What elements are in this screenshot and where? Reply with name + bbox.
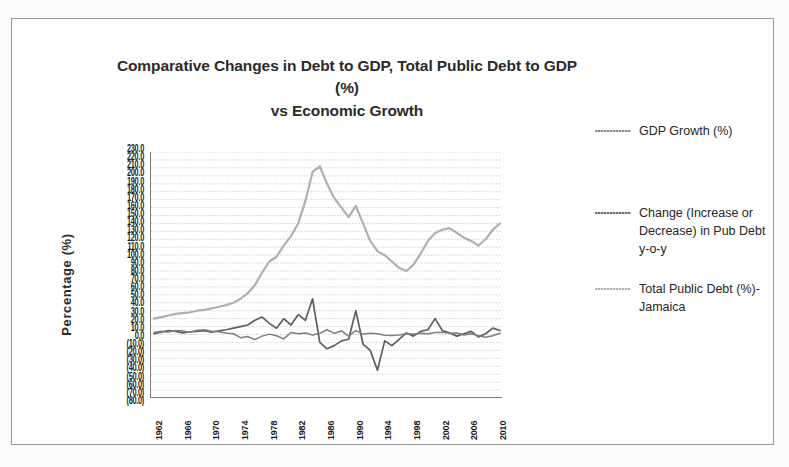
y-axis-title: Percentage (%): [59, 200, 74, 370]
x-axis-tick-label: 1982: [297, 421, 307, 440]
chart-title-line-2: vs Economic Growth: [107, 100, 587, 122]
y-axis-tick-labels: 230.0220.0210.0200.0190.0180.0170.0160.0…: [84, 148, 144, 400]
legend-entry[interactable]: Change (Increase or Decrease) in Pub Deb…: [595, 205, 769, 258]
legend-entry[interactable]: Total Public Debt (%)- Jamaica: [595, 281, 769, 317]
x-axis-tick-label: 1962: [154, 421, 164, 440]
legend-entry[interactable]: GDP Growth (%): [595, 123, 733, 141]
x-axis-tick-label: 1978: [269, 421, 279, 440]
x-axis-tick-label: 1990: [355, 421, 365, 440]
x-axis-tick-label: 1994: [383, 421, 393, 440]
chart-outer-frame: Comparative Changes in Debt to GDP, Tota…: [11, 18, 774, 445]
chart-title: Comparative Changes in Debt to GDP, Tota…: [107, 55, 587, 122]
legend-line-icon: [595, 288, 631, 290]
chart-title-line-1: Comparative Changes in Debt to GDP, Tota…: [117, 57, 577, 96]
x-axis-tick-labels: 1962196619701974197819821986199019941998…: [150, 400, 502, 452]
plot-lines: [151, 152, 502, 398]
legend-line-icon: [595, 130, 631, 132]
x-axis-tick-label: 2002: [441, 421, 451, 440]
x-axis-tick-label: 2010: [498, 421, 508, 440]
legend-line-icon: [595, 212, 631, 214]
plot-area: [150, 152, 502, 398]
chart-screenshot: Comparative Changes in Debt to GDP, Tota…: [0, 0, 789, 467]
x-axis-tick-label: 1986: [326, 421, 336, 440]
legend-label: Total Public Debt (%)- Jamaica: [639, 281, 769, 317]
x-axis-tick-label: 1966: [183, 421, 193, 440]
x-axis-tick-label: 1970: [211, 421, 221, 440]
legend-label: GDP Growth (%): [639, 123, 733, 141]
series-line-total_public_debt: [154, 166, 500, 318]
legend-label: Change (Increase or Decrease) in Pub Deb…: [639, 205, 769, 258]
x-axis-tick-label: 1998: [412, 421, 422, 440]
x-axis-tick-label: 1974: [240, 421, 250, 440]
y-axis-tick-label: (80.0): [86, 396, 144, 405]
x-axis-tick-label: 2006: [469, 421, 479, 440]
